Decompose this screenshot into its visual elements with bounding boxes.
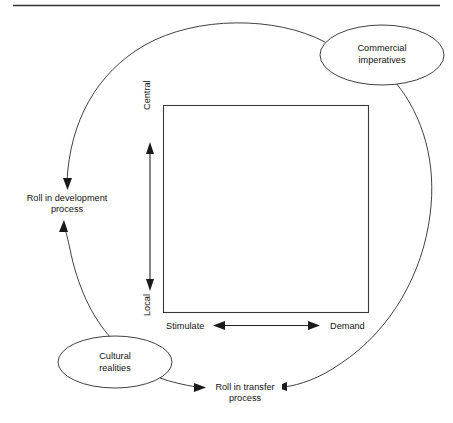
commercial-imperatives-label-line2: imperatives <box>359 55 406 65</box>
diagram-figure: Central Local Stimulate Demand Commercia… <box>0 0 453 423</box>
connector-cultural-to-development-arrowhead <box>59 220 68 232</box>
connector-cultural-to-transfer-arrowhead <box>194 383 206 392</box>
horizontal-axis: Stimulate Demand <box>166 321 365 331</box>
vertical-axis-arrowhead-up <box>146 142 154 154</box>
vertical-axis-arrowhead-down <box>146 279 154 291</box>
development-process-label-line1: Roll in development <box>27 193 108 203</box>
development-process-label-line2: process <box>51 204 84 214</box>
vertical-axis-top-label: Central <box>142 80 152 110</box>
vertical-axis-bottom-label: Local <box>142 294 152 316</box>
horizontal-axis-arrowhead-left <box>213 321 225 330</box>
horizontal-axis-right-label: Demand <box>330 321 365 331</box>
horizontal-axis-arrowhead-right <box>308 321 320 330</box>
center-square <box>164 106 369 313</box>
label-development-process: Roll in development process <box>8 192 128 215</box>
cultural-realities-label-line2: realities <box>99 363 131 373</box>
cultural-realities-ellipse[interactable] <box>58 336 172 388</box>
node-commercial-imperatives[interactable]: Commercial imperatives <box>320 25 444 85</box>
label-transfer-process: Roll in transfer process <box>210 379 282 403</box>
connector-commercial-to-development-arrowhead <box>63 178 72 190</box>
connector-commercial-to-transfer <box>284 83 432 387</box>
vertical-axis: Central Local <box>142 80 154 316</box>
connector-cultural-to-development <box>65 229 112 339</box>
cultural-realities-label-line1: Cultural <box>99 351 131 361</box>
transfer-process-label-line2: process <box>229 393 262 403</box>
node-cultural-realities[interactable]: Cultural realities <box>58 336 172 388</box>
horizontal-axis-left-label: Stimulate <box>166 321 204 331</box>
transfer-process-label-line1: Roll in transfer <box>215 382 274 392</box>
connector-commercial-to-development <box>67 23 325 181</box>
commercial-imperatives-label-line1: Commercial <box>357 43 406 53</box>
connector-cultural-to-transfer <box>160 378 197 387</box>
